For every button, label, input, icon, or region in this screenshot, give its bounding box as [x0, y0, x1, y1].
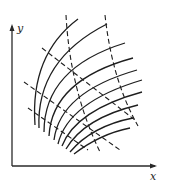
y-axis-label: y	[16, 22, 24, 35]
x-axis-label: x	[150, 170, 157, 183]
y-axis-arrow-icon	[10, 24, 15, 31]
arc-curve	[39, 24, 107, 128]
axes: y x	[10, 22, 158, 183]
arc-curve	[44, 43, 125, 132]
arc-family	[35, 19, 142, 154]
arc-curve	[70, 118, 133, 152]
arc-curve	[74, 128, 130, 154]
x-axis-arrow-icon	[150, 164, 157, 169]
coordinate-diagram: y x	[0, 0, 169, 187]
